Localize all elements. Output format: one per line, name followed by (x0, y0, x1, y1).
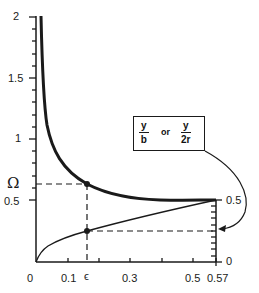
y-left-label-0.5: 0.5 (4, 196, 19, 207)
yb-point (84, 228, 90, 234)
y-right-label-0.5: 0.5 (226, 195, 241, 206)
y-left-label-1.5: 1.5 (8, 73, 23, 84)
fraction-denominator: b (139, 133, 149, 146)
chart-canvas (0, 0, 259, 293)
omega-point (84, 181, 90, 187)
legend-leader (205, 151, 246, 229)
fraction-y-over-b: y b (139, 119, 149, 146)
omega-curve (41, 16, 216, 200)
fraction-denominator: 2r (181, 133, 191, 146)
x-label-0.3: 0.3 (122, 273, 137, 284)
fraction-y-over-2r: y 2r (181, 119, 191, 146)
y-left-label-1: 1 (15, 133, 21, 144)
fraction-numerator: y (181, 119, 191, 133)
x-label-0.5: 0.5 (185, 273, 200, 284)
x-label-0: 0 (27, 273, 33, 284)
y-right-label-0: 0 (226, 256, 232, 267)
arrowhead-icon (218, 225, 226, 232)
x-label-0.57: 0.57 (207, 273, 228, 284)
legend-or: or (161, 127, 170, 137)
legend-box: y b or y 2r (133, 116, 205, 151)
left-axis-ticks (29, 17, 36, 200)
x-label-epsilon: ϵ (84, 271, 89, 282)
y-left-label-2: 2 (13, 11, 19, 22)
fraction-numerator: y (139, 119, 149, 133)
omega-label: Ω (7, 176, 19, 191)
x-label-0.1: 0.1 (61, 273, 76, 284)
